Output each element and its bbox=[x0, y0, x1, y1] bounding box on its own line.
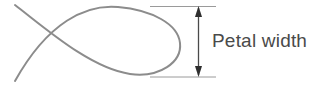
petal-width-label: Petal width bbox=[212, 29, 307, 53]
petal-outline-path bbox=[15, 5, 180, 81]
arrowhead-up-icon bbox=[195, 6, 202, 17]
arrowhead-down-icon bbox=[195, 66, 202, 77]
petal-width-diagram: Petal width bbox=[0, 0, 321, 88]
petal-loop-curve bbox=[15, 5, 180, 81]
